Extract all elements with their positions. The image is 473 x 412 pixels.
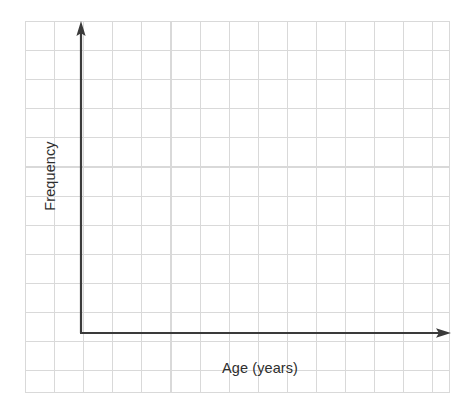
y-axis-label: Frequency bbox=[43, 141, 58, 210]
x-axis-label: Age (years) bbox=[222, 361, 298, 376]
axes-layer bbox=[0, 0, 473, 412]
chart-canvas: Age (years) Frequency bbox=[0, 0, 473, 412]
